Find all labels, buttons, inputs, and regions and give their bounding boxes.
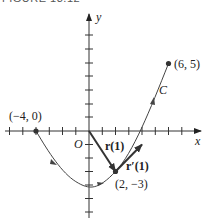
vector-curve-diagram: y x O (−4, 0) (6, 5) (2, −3) C r(1) r′(1… [0,0,208,221]
end-point-label: (6, 5) [174,57,200,71]
point-end [166,61,171,66]
origin-label: O [74,137,83,151]
point-start [33,128,38,133]
tangent-point-label: (2, −3) [115,177,148,191]
position-vector-label: r(1) [105,139,124,153]
x-axis-label: x [194,134,201,148]
tangent-vector-label: r′(1) [126,159,149,173]
y-axis-label: y [95,10,102,24]
point-tangent [113,169,118,174]
start-point-label: (−4, 0) [9,109,42,123]
curve-name-label: C [159,83,168,97]
